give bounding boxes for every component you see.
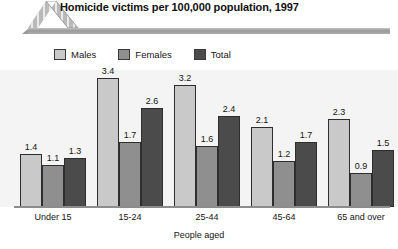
bar-group: 3.21.62.4	[174, 70, 240, 207]
bar-slot: 3.4	[97, 70, 119, 207]
x-axis-title: People aged	[174, 230, 225, 240]
bar-group: 3.41.72.6	[97, 70, 163, 207]
bar-value-label: 0.9	[355, 161, 368, 171]
bar-males[interactable]	[20, 154, 42, 207]
legend-label-females: Females	[135, 49, 171, 60]
chart-header: Homicide victims per 100,000 population,…	[0, 0, 398, 40]
bar-slot: 2.1	[251, 70, 273, 207]
bar-slot: 1.2	[273, 70, 295, 207]
bar-males[interactable]	[251, 127, 273, 207]
bar-slot: 2.3	[328, 70, 350, 207]
bar-males[interactable]	[174, 85, 196, 207]
bar-value-label: 1.6	[201, 134, 214, 144]
bar-group: 2.11.21.7	[251, 70, 317, 207]
page-title: Homicide victims per 100,000 population,…	[60, 1, 299, 13]
bar-females[interactable]	[196, 146, 218, 207]
x-axis-baseline	[14, 206, 390, 208]
bar-slot: 1.7	[295, 70, 317, 207]
bar-value-label: 2.6	[146, 96, 159, 106]
bar-total[interactable]	[64, 158, 86, 207]
bar-value-label: 2.4	[223, 104, 236, 114]
bar-slot: 2.4	[218, 70, 240, 207]
bar-value-label: 3.2	[179, 73, 192, 83]
bar-slot: 3.2	[174, 70, 196, 207]
x-axis-tick-label: 15-24	[118, 212, 141, 222]
legend-swatch-total	[194, 49, 206, 60]
bar-value-label: 1.7	[124, 130, 137, 140]
x-axis-tick-label: 65 and over	[337, 212, 385, 222]
bar-slot: 2.6	[141, 70, 163, 207]
bar-value-label: 1.2	[278, 149, 291, 159]
bar-total[interactable]	[218, 116, 240, 207]
legend-item-females: Females	[118, 49, 171, 60]
bar-males[interactable]	[328, 119, 350, 207]
bar-group: 2.30.91.5	[328, 70, 394, 207]
bar-females[interactable]	[273, 161, 295, 207]
bar-value-label: 1.7	[300, 130, 313, 140]
bar-groups-container: 1.41.11.33.41.72.63.21.62.42.11.21.72.30…	[0, 70, 398, 207]
bar-total[interactable]	[295, 142, 317, 207]
x-axis-tick-label: 45-64	[272, 212, 295, 222]
legend-swatch-males	[54, 49, 66, 60]
bar-value-label: 1.5	[377, 138, 390, 148]
bar-slot: 1.6	[196, 70, 218, 207]
bar-females[interactable]	[42, 165, 64, 207]
bar-value-label: 2.3	[333, 107, 346, 117]
bar-slot: 1.7	[119, 70, 141, 207]
legend-item-males: Males	[54, 49, 96, 60]
bar-value-label: 1.1	[47, 153, 60, 163]
bar-value-label: 1.3	[69, 146, 82, 156]
bar-slot: 0.9	[350, 70, 372, 207]
legend-label-total: Total	[211, 49, 231, 60]
bar-group: 1.41.11.3	[20, 70, 86, 207]
x-axis-tick-label: Under 15	[34, 212, 71, 222]
bar-total[interactable]	[372, 150, 394, 207]
bar-total[interactable]	[141, 108, 163, 207]
bar-males[interactable]	[97, 78, 119, 207]
title-rule	[28, 28, 390, 34]
bar-value-label: 1.4	[25, 142, 38, 152]
bar-value-label: 3.4	[102, 66, 115, 76]
legend-label-males: Males	[71, 49, 96, 60]
bar-slot: 1.1	[42, 70, 64, 207]
bar-value-label: 2.1	[256, 115, 269, 125]
bar-females[interactable]	[119, 142, 141, 207]
bar-slot: 1.3	[64, 70, 86, 207]
bar-females[interactable]	[350, 173, 372, 207]
bar-slot: 1.5	[372, 70, 394, 207]
chart-legend: Males Females Total	[54, 49, 231, 60]
legend-swatch-females	[118, 49, 130, 60]
x-axis-tick-label: 25-44	[195, 212, 218, 222]
plot-area: 1.41.11.33.41.72.63.21.62.42.11.21.72.30…	[0, 70, 398, 207]
legend-item-total: Total	[194, 49, 231, 60]
bar-slot: 1.4	[20, 70, 42, 207]
